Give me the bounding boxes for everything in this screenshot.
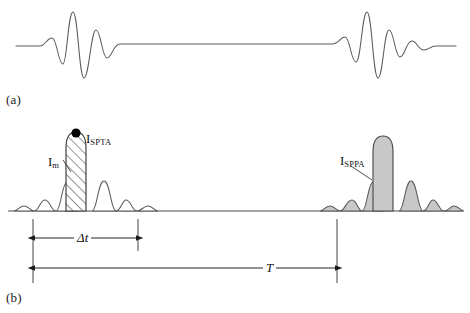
lobe-outer-right-2 (444, 206, 464, 211)
main-peak-hatched (66, 132, 86, 211)
lobe-mid-right-2 (423, 200, 444, 211)
lobe-inner-right-2 (399, 181, 423, 211)
dimension-lines (33, 219, 337, 283)
lobe-mid-right-1 (116, 200, 137, 211)
im-label: Im (48, 152, 59, 170)
panel-a-waveform (16, 12, 456, 78)
gray-burst-group (320, 136, 464, 211)
ispta-subscript: SPTA (90, 137, 111, 147)
panel-b-intensity (8, 128, 464, 283)
peak-marker-dot (71, 128, 80, 137)
panel-a-label: (a) (6, 92, 21, 108)
isppa-subscript: SPPA (344, 159, 364, 169)
lobe-mid-left-2 (340, 200, 362, 211)
lobe-outer-right-1 (137, 206, 158, 211)
waveform-trace-a (16, 12, 456, 78)
ispta-label: ISPTA (86, 129, 111, 147)
lobe-mid-left-1 (34, 200, 56, 211)
period-label: T (263, 260, 276, 276)
isppa-label: ISPPA (340, 151, 365, 169)
figure-container: (a) (b) ISPTA Im ISPPA Δt T (0, 0, 470, 313)
lobe-inner-right-1 (92, 181, 116, 211)
pulse-duration-label: Δt (74, 230, 91, 246)
lobe-outer-left-2 (320, 206, 340, 211)
figure-canvas (0, 0, 470, 313)
im-subscript: m (52, 160, 59, 170)
lobe-outer-left-1 (14, 206, 34, 211)
panel-b-label: (b) (6, 290, 22, 306)
main-peak-gray (373, 136, 393, 211)
